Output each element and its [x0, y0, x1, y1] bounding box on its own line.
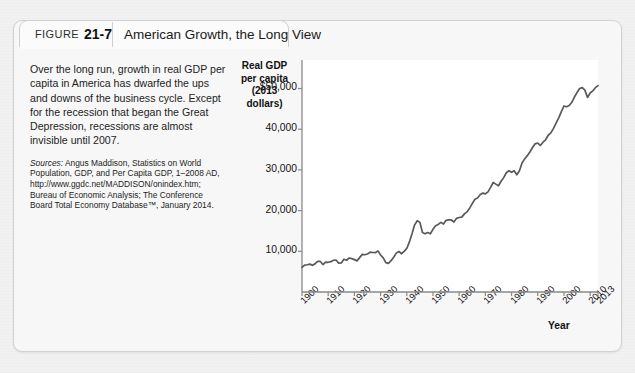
chart: Real GDP per capita (2013 dollars) $50,0… [233, 52, 605, 342]
figure-tab-divider [112, 22, 113, 47]
gdp-per-capita-line [302, 86, 598, 268]
figure-caption: Over the long run, growth in real GDP pe… [30, 62, 226, 211]
sources-prefix: Sources: [30, 158, 63, 168]
figure-title: American Growth, the Long View [124, 22, 321, 47]
chart-svg [233, 52, 605, 342]
caption-sources: Sources: Angus Maddison, Statistics on W… [30, 158, 226, 211]
caption-body: Over the long run, growth in real GDP pe… [30, 62, 226, 148]
figure-label-word: Figure [35, 28, 79, 40]
figure-number: 21-7 [84, 26, 112, 42]
